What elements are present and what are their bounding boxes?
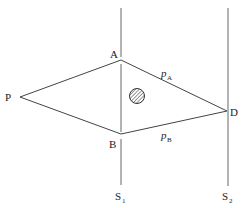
paths [20,60,227,134]
label-a: A [110,48,118,60]
svg-text:2: 2 [229,197,233,205]
svg-text:B: B [167,136,172,144]
svg-text:A: A [167,74,172,82]
svg-text:S: S [115,190,121,202]
svg-text:p: p [160,129,167,141]
svg-text:1: 1 [122,197,126,205]
hatched-obstacle [130,89,145,104]
two-path-diagram: A B P D p A p B S 1 S 2 [0,0,245,208]
path-p-a [20,60,121,97]
path-b-d [121,111,227,134]
label-s1: S 1 [115,190,126,205]
label-b: B [109,138,116,150]
label-d: D [230,106,238,118]
svg-text:S: S [222,190,228,202]
path-p-b [20,97,121,134]
svg-text:p: p [160,67,167,79]
label-p-b: p B [160,129,172,144]
label-s2: S 2 [222,190,233,205]
label-p: P [5,91,11,103]
